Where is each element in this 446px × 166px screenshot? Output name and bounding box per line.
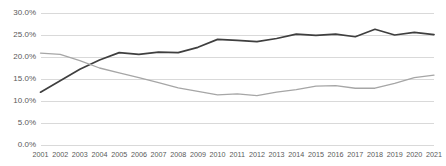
x-axis-tick-label: 2021: [422, 150, 446, 159]
y-axis-tick-label: 5.0%: [0, 118, 36, 127]
y-axis-tick-label: 30.0%: [0, 8, 36, 17]
y-axis-tick-label: 15.0%: [0, 74, 36, 83]
y-axis-tick-label: 25.0%: [0, 30, 36, 39]
series-lines-group: [41, 29, 435, 95]
gridlines-group: [41, 13, 435, 145]
y-axis-tick-label: 0.0%: [0, 140, 36, 149]
y-axis-tick-label: 10.0%: [0, 96, 36, 105]
y-axis-tick-label: 20.0%: [0, 52, 36, 61]
series-line-1: [41, 29, 435, 92]
